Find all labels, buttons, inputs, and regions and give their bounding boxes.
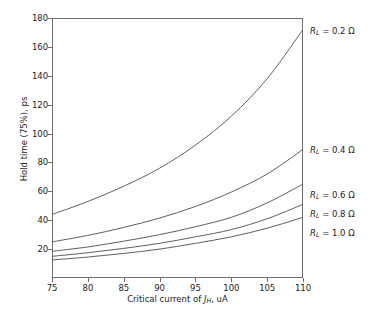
x-axis-title-pre: Critical current of [127, 294, 204, 304]
x-tick-mark [303, 278, 304, 282]
x-axis-title: Critical current of JH, uA [52, 294, 303, 305]
x-tick-mark [267, 278, 268, 282]
y-tick-mark [48, 162, 52, 163]
x-tick-mark [88, 278, 89, 282]
series-label-2: RL = 0.4 Ω [310, 145, 355, 156]
y-axis-title: Hold time (75%), ps [19, 69, 29, 209]
y-tick-label: 60 [37, 186, 48, 196]
x-tick-label: 75 [35, 283, 69, 293]
x-tick-mark [195, 278, 196, 282]
y-tick-mark [48, 105, 52, 106]
x-tick-label: 110 [286, 283, 320, 293]
y-tick-mark [48, 220, 52, 221]
y-tick-label: 80 [37, 157, 48, 167]
x-tick-mark [160, 278, 161, 282]
x-tick-label: 90 [143, 283, 177, 293]
y-tick-label: 180 [32, 13, 48, 23]
y-tick-mark [48, 76, 52, 77]
series-label-value: = 1.0 Ω [319, 228, 354, 238]
x-tick-label: 95 [178, 283, 212, 293]
y-tick-label: 160 [32, 42, 48, 52]
x-tick-mark [231, 278, 232, 282]
y-tick-label: 100 [32, 129, 48, 139]
x-tick-label: 80 [71, 283, 105, 293]
y-tick-label: 140 [32, 71, 48, 81]
series-label-value: = 0.4 Ω [319, 145, 354, 155]
series-label-3: RL = 0.6 Ω [310, 190, 355, 201]
series-label-value: = 0.6 Ω [319, 190, 354, 200]
x-tick-mark [52, 278, 53, 282]
y-tick-label: 20 [37, 244, 48, 254]
y-tick-mark [48, 191, 52, 192]
x-tick-label: 85 [107, 283, 141, 293]
series-label-value: = 0.8 Ω [319, 209, 354, 219]
series-label-4: RL = 0.8 Ω [310, 209, 355, 220]
y-tick-mark [48, 134, 52, 135]
y-tick-mark [48, 249, 52, 250]
plot-area [52, 18, 303, 278]
y-tick-mark [48, 18, 52, 19]
series-label-value: = 0.2 Ω [319, 26, 354, 36]
x-axis-title-post: , uA [211, 294, 228, 304]
x-tick-label: 105 [250, 283, 284, 293]
series-label-1: RL = 0.2 Ω [310, 26, 355, 37]
y-tick-mark [48, 47, 52, 48]
x-tick-mark [124, 278, 125, 282]
series-label-5: RL = 1.0 Ω [310, 228, 355, 239]
x-tick-label: 100 [214, 283, 248, 293]
chart-figure: 20406080100120140160180 7580859095100105… [0, 0, 379, 316]
y-tick-label: 40 [37, 215, 48, 225]
y-tick-label: 120 [32, 100, 48, 110]
